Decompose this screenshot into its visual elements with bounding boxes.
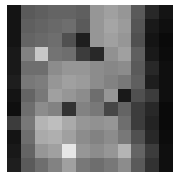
mosaic-cell xyxy=(62,130,76,144)
mosaic-cell xyxy=(76,102,90,116)
mosaic-cell xyxy=(76,19,90,33)
mosaic-cell xyxy=(62,33,76,47)
mosaic-cell xyxy=(35,33,49,47)
mosaic-cell xyxy=(62,19,76,33)
mosaic-cell xyxy=(118,144,132,158)
mosaic-cell xyxy=(7,144,21,158)
pixel-mosaic xyxy=(7,5,173,172)
mosaic-cell xyxy=(145,47,159,61)
mosaic-cell xyxy=(35,158,49,172)
mosaic-cell xyxy=(118,89,132,103)
mosaic-cell xyxy=(21,102,35,116)
mosaic-cell xyxy=(118,102,132,116)
mosaic-cell xyxy=(131,102,145,116)
mosaic-cell xyxy=(131,130,145,144)
mosaic-cell xyxy=(21,116,35,130)
mosaic-cell xyxy=(35,130,49,144)
mosaic-cell xyxy=(90,116,104,130)
mosaic-cell xyxy=(131,116,145,130)
mosaic-cell xyxy=(104,89,118,103)
mosaic-cell xyxy=(118,116,132,130)
mosaic-cell xyxy=(7,61,21,75)
mosaic-cell xyxy=(90,19,104,33)
mosaic-cell xyxy=(104,47,118,61)
mosaic-cell xyxy=(159,19,173,33)
mosaic-cell xyxy=(35,89,49,103)
mosaic-cell xyxy=(145,130,159,144)
mosaic-cell xyxy=(48,5,62,19)
mosaic-cell xyxy=(35,116,49,130)
mosaic-cell xyxy=(7,130,21,144)
mosaic-cell xyxy=(131,61,145,75)
mosaic-cell xyxy=(159,144,173,158)
mosaic-cell xyxy=(159,116,173,130)
mosaic-cell xyxy=(76,75,90,89)
mosaic-cell xyxy=(76,61,90,75)
mosaic-cell xyxy=(62,89,76,103)
mosaic-cell xyxy=(131,33,145,47)
mosaic-cell xyxy=(48,158,62,172)
mosaic-cell xyxy=(90,33,104,47)
mosaic-cell xyxy=(104,158,118,172)
mosaic-cell xyxy=(131,19,145,33)
mosaic-cell xyxy=(7,116,21,130)
mosaic-cell xyxy=(118,130,132,144)
mosaic-cell xyxy=(48,47,62,61)
mosaic-cell xyxy=(48,130,62,144)
mosaic-cell xyxy=(62,158,76,172)
mosaic-cell xyxy=(145,116,159,130)
mosaic-cell xyxy=(35,102,49,116)
mosaic-cell xyxy=(145,89,159,103)
mosaic-cell xyxy=(7,5,21,19)
mosaic-cell xyxy=(21,130,35,144)
mosaic-cell xyxy=(104,19,118,33)
mosaic-cell xyxy=(7,33,21,47)
mosaic-cell xyxy=(7,75,21,89)
mosaic-cell xyxy=(62,144,76,158)
mosaic-cell xyxy=(90,130,104,144)
mosaic-cell xyxy=(76,5,90,19)
mosaic-cell xyxy=(21,89,35,103)
mosaic-cell xyxy=(48,102,62,116)
mosaic-cell xyxy=(90,61,104,75)
mosaic-cell xyxy=(159,130,173,144)
mosaic-cell xyxy=(118,5,132,19)
mosaic-cell xyxy=(159,89,173,103)
mosaic-cell xyxy=(145,158,159,172)
mosaic-cell xyxy=(76,47,90,61)
mosaic-cell xyxy=(90,158,104,172)
mosaic-cell xyxy=(104,116,118,130)
mosaic-cell xyxy=(118,47,132,61)
mosaic-cell xyxy=(35,5,49,19)
mosaic-cell xyxy=(7,158,21,172)
mosaic-cell xyxy=(131,47,145,61)
mosaic-cell xyxy=(131,144,145,158)
mosaic-cell xyxy=(21,47,35,61)
mosaic-cell xyxy=(76,33,90,47)
mosaic-cell xyxy=(145,5,159,19)
mosaic-cell xyxy=(104,75,118,89)
mosaic-cell xyxy=(104,33,118,47)
mosaic-cell xyxy=(21,19,35,33)
mosaic-cell xyxy=(159,33,173,47)
mosaic-cell xyxy=(159,5,173,19)
mosaic-cell xyxy=(90,75,104,89)
mosaic-cell xyxy=(159,61,173,75)
mosaic-cell xyxy=(104,130,118,144)
mosaic-cell xyxy=(62,47,76,61)
mosaic-cell xyxy=(145,61,159,75)
mosaic-cell xyxy=(21,33,35,47)
mosaic-cell xyxy=(7,19,21,33)
mosaic-cell xyxy=(145,19,159,33)
mosaic-cell xyxy=(76,158,90,172)
mosaic-cell xyxy=(62,5,76,19)
mosaic-cell xyxy=(131,75,145,89)
mosaic-cell xyxy=(118,33,132,47)
mosaic-cell xyxy=(35,47,49,61)
mosaic-cell xyxy=(48,89,62,103)
mosaic-cell xyxy=(35,75,49,89)
mosaic-cell xyxy=(7,89,21,103)
mosaic-cell xyxy=(21,158,35,172)
mosaic-cell xyxy=(21,61,35,75)
mosaic-cell xyxy=(21,144,35,158)
